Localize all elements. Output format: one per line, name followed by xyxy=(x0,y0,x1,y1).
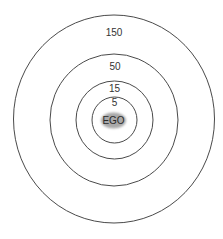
ring-label-50: 50 xyxy=(109,61,121,72)
concentric-circles-diagram: 150 50 15 5 EGO xyxy=(0,0,223,239)
ring-label-15: 15 xyxy=(109,83,121,94)
ring-label-150: 150 xyxy=(106,27,123,38)
ego-label: EGO xyxy=(102,115,124,126)
ring-label-5: 5 xyxy=(112,97,118,108)
